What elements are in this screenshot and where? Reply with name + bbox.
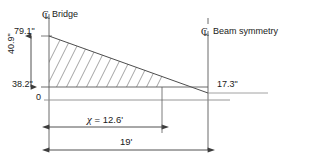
centerline-label-beam-symmetry: CL Beam symmetry bbox=[201, 26, 278, 37]
datum-label-zero: 0 bbox=[36, 93, 41, 102]
elevation-label-40-9: 40.9" bbox=[7, 33, 16, 54]
centerline-bridge-text: Bridge bbox=[52, 10, 78, 19]
chi-equals: = bbox=[92, 114, 103, 125]
dimension-label-chi: χ = 12.6' bbox=[87, 113, 123, 125]
diagram-canvas: CL Bridge CL Beam symmetry 79.1" 40.9" 3… bbox=[0, 0, 310, 167]
centerline-symbol-icon: CL bbox=[42, 9, 50, 20]
centerline-symbol-icon: CL bbox=[201, 26, 209, 37]
chi-value: 12.6' bbox=[103, 114, 123, 125]
elevation-label-79: 79.1" bbox=[14, 27, 35, 36]
centerline-beam-symmetry-text: Beam symmetry bbox=[211, 27, 278, 36]
dimension-chi bbox=[49, 87, 162, 133]
centerline-label-bridge: CL Bridge bbox=[42, 9, 78, 20]
elevation-label-17: 17.3" bbox=[217, 80, 238, 89]
dimension-label-19: 19' bbox=[120, 136, 132, 147]
haunch-top-slope-line bbox=[49, 36, 208, 93]
elevation-label-38: 38.2" bbox=[12, 80, 33, 89]
